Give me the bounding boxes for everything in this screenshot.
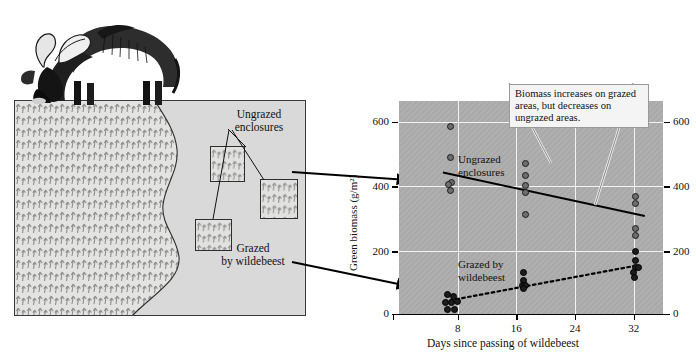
x-tick-24 <box>575 315 576 320</box>
x-tick-32 <box>634 315 635 320</box>
data-point-ungrazed <box>447 154 454 161</box>
y-tick-left-200 <box>392 251 398 252</box>
y-tick-label-left-400: 400 <box>359 180 389 192</box>
wildebeest-illustration <box>13 5 183 105</box>
data-point-grazed <box>520 285 527 292</box>
data-point-grazed <box>520 269 527 276</box>
y-tick-right-400 <box>664 186 670 187</box>
y-tick-left-0 <box>392 314 398 315</box>
y-axis-title: Green biomass (g/m²) <box>347 175 359 271</box>
y-tick-label-right-0: 0 <box>673 307 696 319</box>
data-point-ungrazed <box>447 123 454 130</box>
x-tick-16 <box>516 315 517 320</box>
diagram-label-grazed-by-wildebeest: Grazed by wildebeest <box>205 242 301 268</box>
x-axis-title: Days since passing of wildebeest <box>427 337 579 349</box>
diagram-label-grazed-line2: by wildebeest <box>205 255 301 268</box>
enclosure-grass-1 <box>211 147 244 181</box>
y-tick-label-right-600: 600 <box>673 115 696 127</box>
figure-root: Ungrazed enclosures Grazed by wildebeest <box>0 0 696 363</box>
scatter-chart: 600 400 200 0 600 400 200 0 8 16 24 32 G… <box>399 101 663 315</box>
y-tick-right-200 <box>664 251 670 252</box>
data-point-grazed <box>451 306 458 313</box>
enclosure-box-1 <box>210 146 245 182</box>
x-tick-label-32: 32 <box>620 322 648 334</box>
data-point-grazed <box>444 306 451 313</box>
x-tick-label-24: 24 <box>561 322 589 334</box>
data-point-grazed <box>632 257 639 264</box>
y-tick-label-left-0: 0 <box>359 307 389 319</box>
diagram-label-ungrazed-line2: enclosures <box>217 121 301 134</box>
callout-annotation: Biomass increases on grazed areas, but d… <box>509 84 649 128</box>
data-point-ungrazed <box>522 211 529 218</box>
y-tick-label-left-200: 200 <box>359 245 389 257</box>
data-point-ungrazed <box>522 160 529 167</box>
y-tick-right-600 <box>664 122 670 123</box>
diagram-label-grazed-line1: Grazed <box>205 242 301 255</box>
data-point-ungrazed <box>522 189 529 196</box>
data-point-ungrazed <box>632 232 639 239</box>
y-tick-left-600 <box>392 122 398 123</box>
x-tick-8 <box>458 315 459 320</box>
data-point-grazed <box>454 298 461 305</box>
x-axis-origin-tick <box>393 315 394 320</box>
diagram-label-ungrazed-line1: Ungrazed <box>217 108 301 121</box>
x-tick-label-8: 8 <box>444 322 472 334</box>
diagram-label-ungrazed-enclosures: Ungrazed enclosures <box>217 108 301 134</box>
data-point-ungrazed <box>522 172 529 179</box>
data-point-grazed <box>631 274 638 281</box>
y-tick-label-right-200: 200 <box>673 245 696 257</box>
y-tick-left-400 <box>392 186 398 187</box>
data-point-ungrazed <box>632 200 639 207</box>
data-point-ungrazed <box>447 187 454 194</box>
y-tick-label-right-400: 400 <box>673 180 696 192</box>
data-point-ungrazed <box>632 225 639 232</box>
y-tick-right-0 <box>664 314 670 315</box>
data-points-layer <box>399 101 663 315</box>
callout-text: Biomass increases on grazed areas, but d… <box>515 88 636 123</box>
y-tick-label-left-600: 600 <box>359 115 389 127</box>
x-tick-label-16: 16 <box>502 322 530 334</box>
data-point-grazed <box>632 248 639 255</box>
data-point-ungrazed <box>522 182 529 189</box>
